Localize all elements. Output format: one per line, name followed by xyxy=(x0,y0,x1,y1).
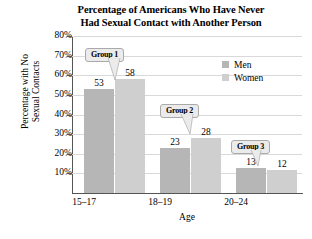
legend-label-men: Men xyxy=(234,60,251,70)
legend-swatch-women-icon xyxy=(222,74,229,81)
y-tick-label-20: 20% xyxy=(44,148,72,158)
bar-men-15-17[interactable] xyxy=(84,89,114,193)
legend-swatch-men-icon xyxy=(222,61,229,68)
y-tick-label-30: 30% xyxy=(44,128,72,138)
y-tick-label-40: 40% xyxy=(44,109,72,119)
x-tick-label-15-17: 15–17 xyxy=(49,197,119,207)
bar-value-men-18-19: 23 xyxy=(160,137,190,147)
legend-item-men[interactable]: Men xyxy=(222,58,263,71)
x-axis-title: Age xyxy=(72,212,302,222)
bar-men-20-24[interactable] xyxy=(236,168,266,194)
x-tick-label-20-24: 20–24 xyxy=(201,197,271,207)
bar-women-15-17[interactable] xyxy=(115,79,145,193)
x-axis-line xyxy=(72,193,303,194)
bar-women-20-24[interactable] xyxy=(267,170,297,194)
legend-item-women[interactable]: Women xyxy=(222,71,263,84)
legend: Men Women xyxy=(222,58,263,84)
legend-label-women: Women xyxy=(234,73,263,83)
x-tick-label-18-19: 18–19 xyxy=(125,197,195,207)
callout-group-1-tail-icon xyxy=(100,58,130,82)
callout-group-3-tail-icon xyxy=(246,150,272,168)
y-tick-label-10: 10% xyxy=(44,167,72,177)
y-tick-label-50: 50% xyxy=(44,89,72,99)
callout-group-2-tail-icon xyxy=(175,114,205,136)
chart-title: Percentage of Americans Who Have Never H… xyxy=(40,4,302,29)
y-tick-label-70: 70% xyxy=(44,50,72,60)
chart-title-line-2: Had Sexual Contact with Another Person xyxy=(40,17,302,30)
bar-men-18-19[interactable] xyxy=(160,148,190,193)
y-tick-label-60: 60% xyxy=(44,69,72,79)
bar-chart: Percentage of Americans Who Have Never H… xyxy=(0,0,312,239)
chart-title-line-1: Percentage of Americans Who Have Never xyxy=(40,4,302,17)
bar-women-18-19[interactable] xyxy=(191,138,221,193)
y-tick-label-80: 80% xyxy=(44,30,72,40)
